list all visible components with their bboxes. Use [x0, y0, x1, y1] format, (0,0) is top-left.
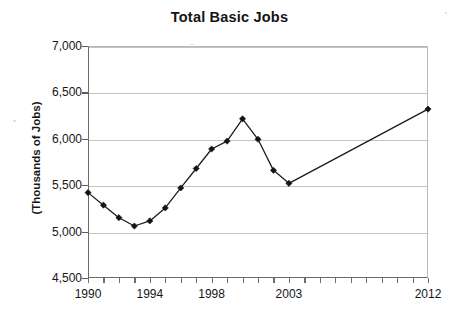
x-tick-mark-2008: [366, 278, 367, 283]
x-tick-mark-1997: [196, 278, 197, 283]
x-tick-mark-2011: [413, 278, 414, 283]
y-tick-label-6500: 6,500: [26, 85, 82, 99]
x-tick-label-1994: 1994: [127, 287, 173, 301]
x-tick-mark-1998: [212, 278, 213, 283]
x-tick-mark-2006: [335, 278, 336, 283]
x-tick-label-1998: 1998: [189, 287, 235, 301]
x-tick-mark-1999: [227, 278, 228, 283]
x-tick-mark-1990: [88, 278, 89, 283]
gridline-7000: [89, 47, 427, 48]
y-tick-mark-6500: [82, 92, 88, 93]
gridline-6000: [89, 140, 427, 141]
x-tick-mark-1996: [181, 278, 182, 283]
x-tick-mark-2010: [397, 278, 398, 283]
x-tick-mark-2000: [243, 278, 244, 283]
x-tick-mark-2002: [273, 278, 274, 283]
x-tick-mark-1993: [134, 278, 135, 283]
y-tick-mark-6000: [82, 139, 88, 140]
scan-speckle: [13, 120, 16, 122]
y-tick-label-4500: 4,500: [26, 271, 82, 285]
x-tick-label-1990: 1990: [65, 287, 111, 301]
y-tick-label-7000: 7,000: [26, 39, 82, 53]
y-tick-label-6000: 6,000: [26, 132, 82, 146]
x-tick-mark-1991: [103, 278, 104, 283]
x-tick-mark-2003: [289, 278, 290, 283]
x-tick-mark-2004: [304, 278, 305, 283]
x-tick-label-2003: 2003: [266, 287, 312, 301]
y-tick-label-5000: 5,000: [26, 225, 82, 239]
x-tick-mark-2005: [320, 278, 321, 283]
gridline-5000: [89, 233, 427, 234]
x-tick-mark-1994: [150, 278, 151, 283]
scan-speckle: [445, 12, 447, 14]
x-tick-mark-2009: [382, 278, 383, 283]
x-tick-label-2012: 2012: [405, 287, 451, 301]
y-tick-mark-5500: [82, 185, 88, 186]
chart-figure: Total Basic Jobs (Thousands of Jobs) 7,0…: [0, 0, 459, 329]
x-tick-mark-2012: [428, 278, 429, 283]
x-tick-mark-2007: [351, 278, 352, 283]
x-tick-mark-1992: [119, 278, 120, 283]
y-tick-mark-7000: [82, 46, 88, 47]
gridline-5500: [89, 186, 427, 187]
y-tick-label-5500: 5,500: [26, 178, 82, 192]
scan-speckle: [190, 44, 194, 45]
gridline-6500: [89, 93, 427, 94]
plot-area: [88, 46, 428, 278]
y-tick-mark-5000: [82, 232, 88, 233]
x-tick-mark-1995: [165, 278, 166, 283]
y-axis-tick-labels: 7,000 6,500 6,000 5,500 5,000 4,500: [20, 0, 82, 329]
x-tick-mark-2001: [258, 278, 259, 283]
